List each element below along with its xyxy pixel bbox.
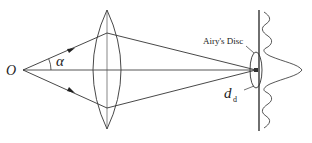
airy-disc-label: Airy's Disc: [203, 36, 243, 46]
airy-disc-diagram: O α Airy's Disc d d: [0, 0, 312, 143]
object-point-label: O: [6, 63, 16, 78]
intensity-profile: [262, 12, 302, 128]
airy-disc-leader: [246, 46, 254, 53]
diameter-subscript: d: [233, 95, 237, 104]
upper-ray-arrow-icon: [67, 48, 75, 53]
diameter-label: d: [224, 85, 232, 101]
angle-arc: [49, 59, 51, 70]
focus-spot: [254, 68, 258, 72]
half-angle-label: α: [56, 53, 65, 69]
diameter-leader: [244, 86, 254, 90]
